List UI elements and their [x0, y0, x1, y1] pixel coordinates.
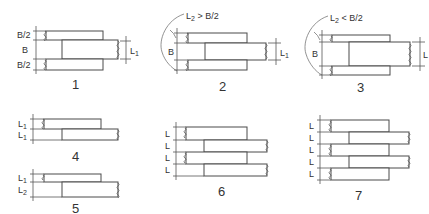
- label-b-half-bottom: B/2: [17, 60, 31, 70]
- arc-tick: [170, 30, 176, 38]
- label-l: L: [309, 121, 314, 131]
- figure-4: L1 L1 4: [18, 114, 119, 164]
- label-l1: L: [423, 50, 428, 60]
- board-bottom: [332, 66, 390, 75]
- figure-1: B/2 B B/2 L1 1: [17, 26, 139, 92]
- arc-tick: [314, 32, 320, 40]
- board-2: [204, 140, 267, 152]
- figure-number: 3: [357, 80, 364, 95]
- board-top: [46, 31, 103, 40]
- label-b: B: [168, 47, 174, 57]
- label-l: L: [165, 129, 170, 139]
- board-1: [186, 127, 247, 140]
- label-b: B: [22, 45, 28, 55]
- board-middle: [205, 43, 266, 60]
- label-l1: L1: [18, 173, 27, 184]
- label-l: L: [309, 145, 314, 155]
- figure-number: 1: [72, 77, 79, 92]
- lap-joint-diagram: B/2 B B/2 L1 1 L2 > B/2 B: [0, 0, 429, 214]
- condition-label: L2 < B/2: [330, 13, 363, 24]
- board-upper: [44, 119, 101, 129]
- figure-number: 2: [219, 79, 226, 94]
- board-5: [331, 168, 389, 180]
- label-l: L: [309, 157, 314, 167]
- label-l1: L1: [18, 130, 27, 141]
- figure-3: L2 < B/2 B L 3: [305, 13, 428, 95]
- figure-7: L L L L L 7: [309, 115, 410, 203]
- board-lower: [62, 182, 118, 197]
- figure-number: 4: [72, 149, 79, 164]
- label-l1: L1: [18, 119, 27, 130]
- board-top: [332, 35, 390, 42]
- board-3: [331, 144, 389, 156]
- board-4: [349, 156, 409, 168]
- board-upper: [44, 174, 101, 182]
- label-l: L: [309, 169, 314, 179]
- board-bottom: [188, 60, 247, 70]
- board-3: [186, 152, 247, 164]
- board-bottom: [46, 59, 103, 70]
- condition-arc: [161, 14, 184, 71]
- label-l1: L1: [280, 48, 289, 59]
- dimension-left: [33, 26, 46, 74]
- figure-number: 7: [355, 188, 362, 203]
- figure-number: 5: [72, 201, 79, 214]
- board-lower: [62, 129, 118, 140]
- board-top: [188, 33, 247, 43]
- label-b-half-top: B/2: [17, 30, 31, 40]
- condition-label: L2 > B/2: [186, 11, 219, 22]
- figure-6: L L L L 6: [165, 122, 268, 199]
- label-l2: L2: [18, 185, 27, 196]
- board-2: [349, 132, 409, 144]
- label-l: L: [165, 165, 170, 175]
- board-middle: [62, 40, 118, 59]
- dimension-left: [319, 30, 332, 79]
- label-l1: L1: [130, 46, 139, 57]
- label-l: L: [165, 153, 170, 163]
- figure-number: 6: [218, 184, 225, 199]
- figure-2: L2 > B/2 B L1 2: [161, 11, 289, 94]
- figure-5: L1 L2 5: [18, 169, 119, 214]
- board-middle: [349, 42, 410, 66]
- label-l: L: [165, 141, 170, 151]
- label-l: L: [309, 133, 314, 143]
- board-1: [331, 120, 389, 132]
- label-b: B: [312, 49, 318, 59]
- board-4: [204, 164, 267, 176]
- dimension-left: [174, 28, 188, 74]
